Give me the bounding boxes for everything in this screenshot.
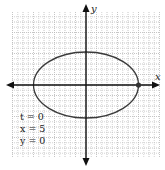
y-axis-top-arrow-icon [83,4,90,12]
y-axis-bottom-arrow-icon [83,158,90,166]
annotation-t: t = 0 [20,111,44,122]
x-axis-left-arrow-icon [6,82,14,89]
highlighted-point [136,82,141,87]
y-axis-label: y [90,3,97,14]
annotation-x: x = 5 [20,123,45,134]
x-axis-right-arrow-icon [152,82,160,89]
x-axis-label: x [155,71,161,82]
annotation-y: y = 0 [20,135,45,146]
